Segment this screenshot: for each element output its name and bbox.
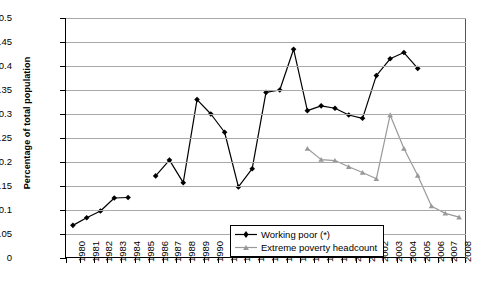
data-point: [360, 116, 366, 122]
x-axis-tick-label: 2008: [462, 222, 473, 262]
gridline: [66, 114, 466, 115]
chart-legend: Working poor (*) Extreme poverty headcou…: [230, 225, 384, 257]
series-line: [156, 49, 418, 187]
y-axis-tick: [60, 114, 66, 115]
y-axis-tick-label: 0.25: [0, 132, 12, 143]
x-axis-tick-label: 2005: [421, 222, 432, 262]
data-point: [346, 164, 352, 169]
gridline: [66, 42, 466, 43]
series-line: [307, 115, 459, 217]
gridline: [66, 66, 466, 67]
y-axis-tick: [60, 90, 66, 91]
y-axis-tick: [60, 162, 66, 163]
x-axis-tick-label: 1989: [200, 222, 211, 262]
x-axis-tick-label: 2007: [448, 222, 459, 262]
y-axis-tick: [60, 66, 66, 67]
data-point: [84, 215, 90, 221]
gridline: [66, 138, 466, 139]
data-point: [180, 180, 186, 186]
y-axis-title: Percentage of total population: [22, 38, 32, 208]
y-axis-tick-label: 0.4: [0, 60, 12, 71]
y-axis-tick-label: 0.2: [0, 156, 12, 167]
y-axis-tick-label: 0.05: [0, 228, 12, 239]
y-axis-tick: [60, 210, 66, 211]
y-axis-tick-label: 0.1: [0, 204, 12, 215]
gridline: [66, 162, 466, 163]
data-point: [332, 105, 338, 111]
y-axis-tick-label: 0.5: [0, 12, 12, 23]
x-axis-tick-label: 1988: [186, 222, 197, 262]
legend-swatch-extreme-poverty: [235, 242, 257, 253]
data-point: [291, 46, 297, 52]
legend-item-extreme-poverty: Extreme poverty headcount: [235, 241, 377, 254]
x-axis-tick-label: 1986: [159, 222, 170, 262]
gridline: [66, 90, 466, 91]
chart-container: Percentage of total population 0.50.450.…: [0, 0, 483, 308]
legend-label-working-poor: Working poor (*): [261, 229, 330, 240]
data-point: [443, 211, 449, 216]
data-point: [415, 173, 421, 178]
y-axis-tick: [60, 186, 66, 187]
data-point: [70, 223, 76, 229]
legend-swatch-working-poor: [235, 229, 257, 240]
data-point: [318, 103, 324, 109]
y-axis-tick-label: 0: [0, 252, 12, 263]
series-extreme-poverty-headcount: [305, 112, 462, 219]
x-axis-tick-label: 1982: [103, 222, 114, 262]
y-axis-tick: [60, 18, 66, 19]
y-axis-tick-label: 0.35: [0, 84, 12, 95]
x-axis-tick-label: 1990: [214, 222, 225, 262]
x-axis-tick-label: 1980: [76, 222, 87, 262]
data-point: [305, 146, 311, 151]
legend-item-working-poor: Working poor (*): [235, 228, 377, 241]
y-axis-tick-label: 0.45: [0, 36, 12, 47]
data-point: [401, 146, 407, 151]
data-point: [305, 108, 311, 114]
x-axis-tick-label: 2004: [407, 222, 418, 262]
data-point: [374, 176, 380, 181]
x-axis-tick-label: 1984: [131, 222, 142, 262]
gridline: [66, 210, 466, 211]
y-axis-tick-label: 0.3: [0, 108, 12, 119]
data-point: [125, 195, 131, 201]
y-axis-tick: [60, 234, 66, 235]
x-axis-tick-label: 1987: [172, 222, 183, 262]
y-axis-tick-label: 0.15: [0, 180, 12, 191]
y-axis-tick: [60, 138, 66, 139]
x-axis-tick-label: 1983: [117, 222, 128, 262]
legend-label-extreme-poverty: Extreme poverty headcount: [261, 242, 377, 253]
x-axis-tick-label: 1985: [145, 222, 156, 262]
y-axis-tick: [60, 42, 66, 43]
gridline: [66, 18, 466, 19]
x-axis-tick-label: 1981: [90, 222, 101, 262]
x-axis-tick-label: 2006: [435, 222, 446, 262]
gridline: [66, 186, 466, 187]
data-point: [429, 204, 435, 209]
x-axis-tick: [66, 258, 67, 263]
x-axis-tick-label: 2003: [393, 222, 404, 262]
